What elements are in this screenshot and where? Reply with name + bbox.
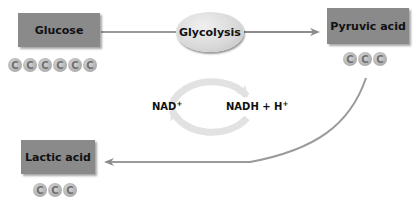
nadh-label: NADH + H+ — [226, 100, 288, 112]
carbon-atom: C — [343, 52, 357, 66]
carbon-atom: C — [68, 58, 82, 72]
lactic-acid-carbons: C C C — [33, 183, 78, 197]
carbon-atom: C — [63, 183, 77, 197]
glucose-label: Glucose — [35, 24, 84, 37]
carbon-atom: C — [358, 52, 372, 66]
carbon-atom: C — [53, 58, 67, 72]
glucose-carbons: C C C C C C — [8, 58, 98, 72]
carbon-atom: C — [48, 183, 62, 197]
cycle-arrow-bottom — [172, 110, 247, 132]
pyruvic-acid-box: Pyruvic acid — [327, 8, 409, 44]
lactic-acid-box: Lactic acid — [21, 140, 95, 174]
carbon-atom: C — [33, 183, 47, 197]
carbon-atom: C — [23, 58, 37, 72]
carbon-atom: C — [83, 58, 97, 72]
carbon-atom: C — [8, 58, 22, 72]
pyruvic-acid-label: Pyruvic acid — [330, 20, 406, 33]
glycolysis-label: Glycolysis — [179, 26, 241, 39]
lactic-acid-label: Lactic acid — [25, 151, 91, 164]
nad-plus-label: NAD+ — [152, 100, 182, 112]
carbon-atom: C — [38, 58, 52, 72]
pyruvic-acid-carbons: C C C — [343, 52, 388, 66]
glycolysis-oval: Glycolysis — [176, 12, 244, 52]
carbon-atom: C — [373, 52, 387, 66]
glucose-box: Glucose — [18, 13, 100, 47]
